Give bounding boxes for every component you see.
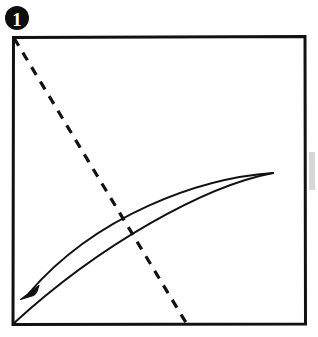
origami-step-diagram: 1 — [0, 0, 318, 337]
scan-artifact-smudge — [309, 152, 315, 190]
paper-square — [13, 37, 306, 325]
step-number-label: 1 — [12, 9, 22, 30]
diagram-canvas: 1 — [0, 0, 318, 337]
